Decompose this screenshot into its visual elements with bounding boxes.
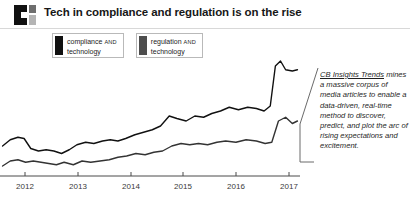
x-axis-label-2016: 2016 (227, 182, 245, 191)
x-axis-labels: 201220132014201520162017 (0, 182, 310, 196)
logo-block-mid (29, 5, 36, 13)
side-note: CB Insights Trends mines a massive corpu… (320, 70, 408, 152)
x-axis-label-2014: 2014 (122, 182, 140, 191)
callout-pointer-icon (296, 66, 322, 171)
trend-line-regulation (3, 117, 298, 166)
side-note-body: mines a massive corpus of media articles… (320, 70, 408, 150)
x-axis-label-2017: 2017 (280, 182, 298, 191)
x-axis-label-2012: 2012 (16, 182, 34, 191)
legend-label-compliance-main: compliance (67, 38, 102, 45)
chart-plot-area (0, 45, 300, 180)
logo-notch (21, 12, 28, 18)
logo-block-light (29, 15, 36, 25)
legend-label-regulation-main: regulation (151, 38, 182, 45)
x-axis-label-2015: 2015 (174, 182, 192, 191)
side-note-lead: CB Insights Trends (320, 70, 384, 79)
page-title: Tech in compliance and regulation is on … (44, 6, 302, 18)
x-axis-label-2013: 2013 (69, 182, 87, 191)
trends-chart-card: Tech in compliance and regulation is on … (0, 0, 410, 201)
trend-line-compliance (3, 61, 298, 154)
header-divider (0, 28, 410, 29)
cb-insights-logo-icon (14, 5, 36, 25)
trend-lines-svg (0, 45, 300, 180)
